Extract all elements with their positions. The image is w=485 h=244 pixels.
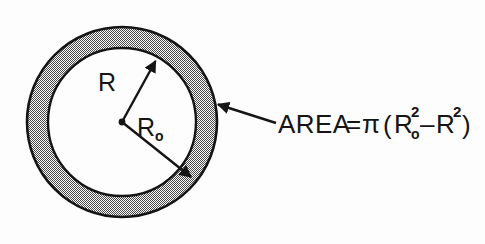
formula-minus: – [420,109,435,139]
formula-lhs: AREA [278,109,351,139]
formula-equals: = [346,109,362,139]
annulus-area-figure: R R o AREA = π ( R o 2 – R 2 ) [0,0,485,244]
area-formula: AREA = π ( R o 2 – R 2 ) [278,103,471,142]
formula-pi: π [362,109,380,139]
outer-radius-label-base: R [137,113,155,141]
outer-radius-label-subscript: o [155,128,164,144]
inner-radius-label: R [98,68,116,96]
formula-close-paren: ) [462,110,471,140]
formula-term2-exponent: 2 [453,103,461,120]
center-point [119,119,126,126]
formula-term1-exponent: 2 [411,103,419,120]
annulus-diagram-svg: R R o AREA = π ( R o 2 – R 2 ) [0,0,485,244]
formula-open-paren: ( [383,110,392,140]
formula-term1-subscript: o [411,126,420,142]
